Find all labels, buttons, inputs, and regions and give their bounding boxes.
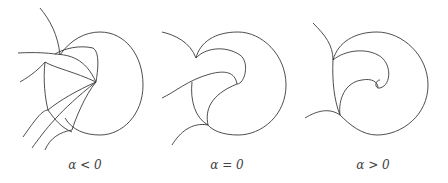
- panel-alpha-zero: [162, 32, 286, 145]
- panel-alpha-negative: [18, 8, 143, 150]
- label-alpha-zero: α = 0: [197, 158, 257, 172]
- label-alpha-negative: α < 0: [55, 158, 115, 172]
- label-alpha-positive: α > 0: [343, 158, 403, 172]
- phase-portraits-diagram: [0, 0, 448, 183]
- panel-alpha-positive: [305, 23, 428, 135]
